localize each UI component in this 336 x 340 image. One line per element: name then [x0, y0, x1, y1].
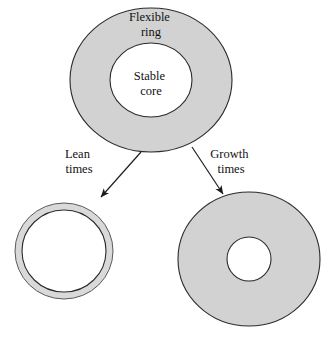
lean-times-label-line1: Lean — [65, 147, 91, 161]
growth-times-ring — [178, 192, 320, 326]
lean-ring-core — [22, 210, 106, 292]
flexible-ring-label-line1: Flexible — [129, 10, 170, 24]
growth-times-label-line2: times — [217, 161, 244, 175]
diagram-canvas: Flexible ring Stable core Lean times Gro… — [0, 0, 336, 340]
growth-times-label: Growth times — [210, 147, 251, 176]
lean-times-arrow — [101, 152, 141, 197]
lean-times-label-line2: times — [65, 161, 92, 175]
lean-times-connector: Lean times — [65, 147, 141, 197]
stable-core-label-line1: Stable — [134, 69, 166, 83]
ring-diagram-svg: Flexible ring Stable core Lean times Gro… — [0, 0, 336, 340]
growth-ring-core — [227, 237, 271, 281]
growth-times-label-line1: Growth — [210, 147, 249, 161]
flexible-ring-label-line2: ring — [141, 24, 162, 38]
growth-times-connector: Growth times — [192, 147, 252, 194]
main-organization-ring: Flexible ring Stable core — [70, 8, 232, 152]
lean-times-label: Lean times — [65, 147, 93, 176]
lean-times-ring — [15, 203, 113, 299]
stable-core-label-line2: core — [140, 83, 162, 97]
